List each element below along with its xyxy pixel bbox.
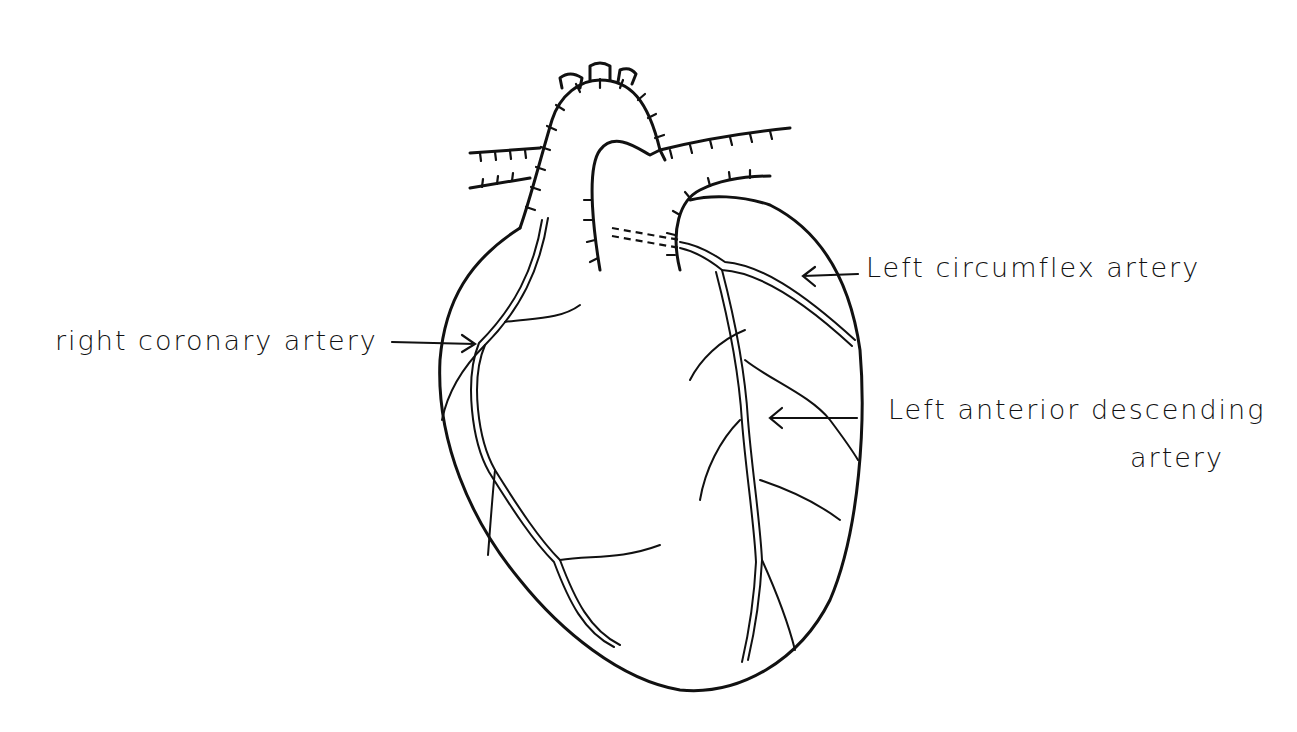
annotation-arrows [0,0,1297,732]
label-right-coronary-artery: right coronary artery [55,325,378,356]
label-lad-line2: artery [1130,442,1224,473]
rca-arrow [392,335,475,352]
lad-arrow [770,408,857,428]
label-lad-line1: Left anterior descending [888,394,1265,425]
label-left-circumflex-artery: Left circumflex artery [866,252,1200,283]
lcx-arrow [803,267,858,286]
